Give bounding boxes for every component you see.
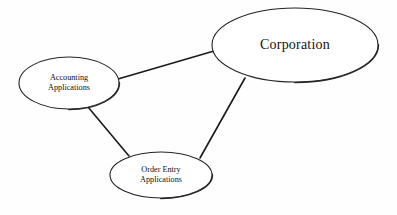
- diagram-svg: [0, 0, 397, 215]
- edge-corporation-to-order-entry: [200, 78, 245, 158]
- corporation-label: Corporation: [260, 37, 330, 53]
- accounting-applications-label: Accounting Applications: [48, 73, 90, 92]
- corporation-label-line-1: Corporation: [260, 37, 330, 52]
- accounting-label-line-1: Accounting: [48, 73, 90, 83]
- order-entry-label-line-2: Applications: [140, 175, 182, 185]
- accounting-label-line-2: Applications: [48, 83, 90, 93]
- order-entry-applications-label: Order Entry Applications: [140, 165, 182, 184]
- diagram-canvas: Corporation Accounting Applications Orde…: [0, 0, 397, 215]
- edge-accounting-to-order-entry: [88, 107, 129, 156]
- order-entry-label-line-1: Order Entry: [140, 165, 182, 175]
- edge-accounting-to-corporation: [118, 51, 214, 79]
- edge-group: [88, 51, 245, 158]
